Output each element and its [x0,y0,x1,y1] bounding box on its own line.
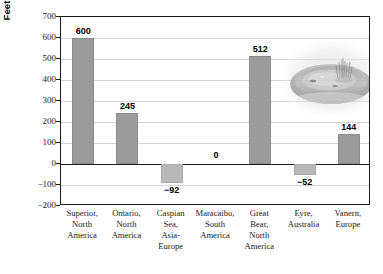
gridline [61,38,369,39]
bar[interactable] [116,113,138,164]
y-tick-mark [56,100,60,101]
bar[interactable] [72,38,94,164]
category-label: Ontario,NorthAmerica [104,208,148,241]
y-tick-label: 300 [18,95,56,105]
y-tick-mark [56,16,60,17]
y-tick-mark [56,205,60,206]
category-label-line: Eyre, [281,208,325,219]
bar-chart-figure: Feet Above or Below Sea Level 7006005004… [0,0,383,274]
category-label-line: Great [237,208,281,219]
category-label-line: Ontario, [104,208,148,219]
bar-value-label: −92 [142,185,202,195]
category-label-line: Australia [281,219,325,230]
category-label-line: North [237,230,281,241]
y-tick-mark [56,37,60,38]
category-label-line: America [237,241,281,252]
category-label-line: Europe [149,241,193,252]
bar[interactable] [338,134,360,164]
category-label: CaspianSea,Asia-Europe [149,208,193,252]
category-label-line: America [193,230,237,241]
zero-axis-line [61,164,369,165]
y-tick-label: 600 [18,32,56,42]
category-label-line: South [193,219,237,230]
category-label-line: Vanern, [326,208,370,219]
bar-value-label: 0 [186,150,246,160]
y-tick-label: 100 [18,137,56,147]
bar[interactable] [249,56,271,164]
lake-landform-photo-icon [283,42,370,116]
y-tick-label: −200 [18,200,56,210]
gridline [61,143,369,144]
category-label-line: America [60,230,104,241]
category-label: Eyre,Australia [281,208,325,230]
y-tick-label: −100 [18,179,56,189]
y-tick-label: 700 [18,11,56,21]
category-label-line: Europe [326,219,370,230]
y-axis-tick-labels: 7006005004003002001000−100−200 [18,10,56,208]
y-tick-mark [56,184,60,185]
bar-value-label: −52 [275,177,335,187]
category-label: Vanern,Europe [326,208,370,230]
y-tick-label: 200 [18,116,56,126]
y-tick-label: 0 [18,158,56,168]
category-label-line: Asia- [149,230,193,241]
category-label-line: America [104,230,148,241]
category-label-line: Superior, [60,208,104,219]
category-label-line: North [104,219,148,230]
y-tick-mark [56,121,60,122]
category-label: Maracaibo,SouthAmerica [193,208,237,241]
bar[interactable] [294,164,316,175]
category-label: Superior,NorthAmerica [60,208,104,241]
bar-value-label: 144 [319,122,370,132]
bar[interactable] [161,164,183,183]
category-label-line: Bear, [237,219,281,230]
y-tick-mark [56,58,60,59]
bar-value-label: 245 [97,101,157,111]
category-label-line: Caspian [149,208,193,219]
y-tick-label: 400 [18,74,56,84]
category-label-line: Sea, [149,219,193,230]
bar-value-label: 512 [230,44,290,54]
category-label-line: North [60,219,104,230]
category-label: GreatBear,NorthAmerica [237,208,281,252]
y-tick-label: 500 [18,53,56,63]
plot-area: 600245−920512−52144 [60,16,370,205]
x-axis-category-labels: Superior,NorthAmericaOntario,NorthAmeric… [60,208,370,274]
category-label-line: Maracaibo, [193,208,237,219]
bar-value-label: 600 [60,26,113,36]
y-axis-title: Feet Above or Below Sea Level [0,0,14,44]
y-tick-mark [56,163,60,164]
y-tick-mark [56,142,60,143]
y-tick-mark [56,79,60,80]
